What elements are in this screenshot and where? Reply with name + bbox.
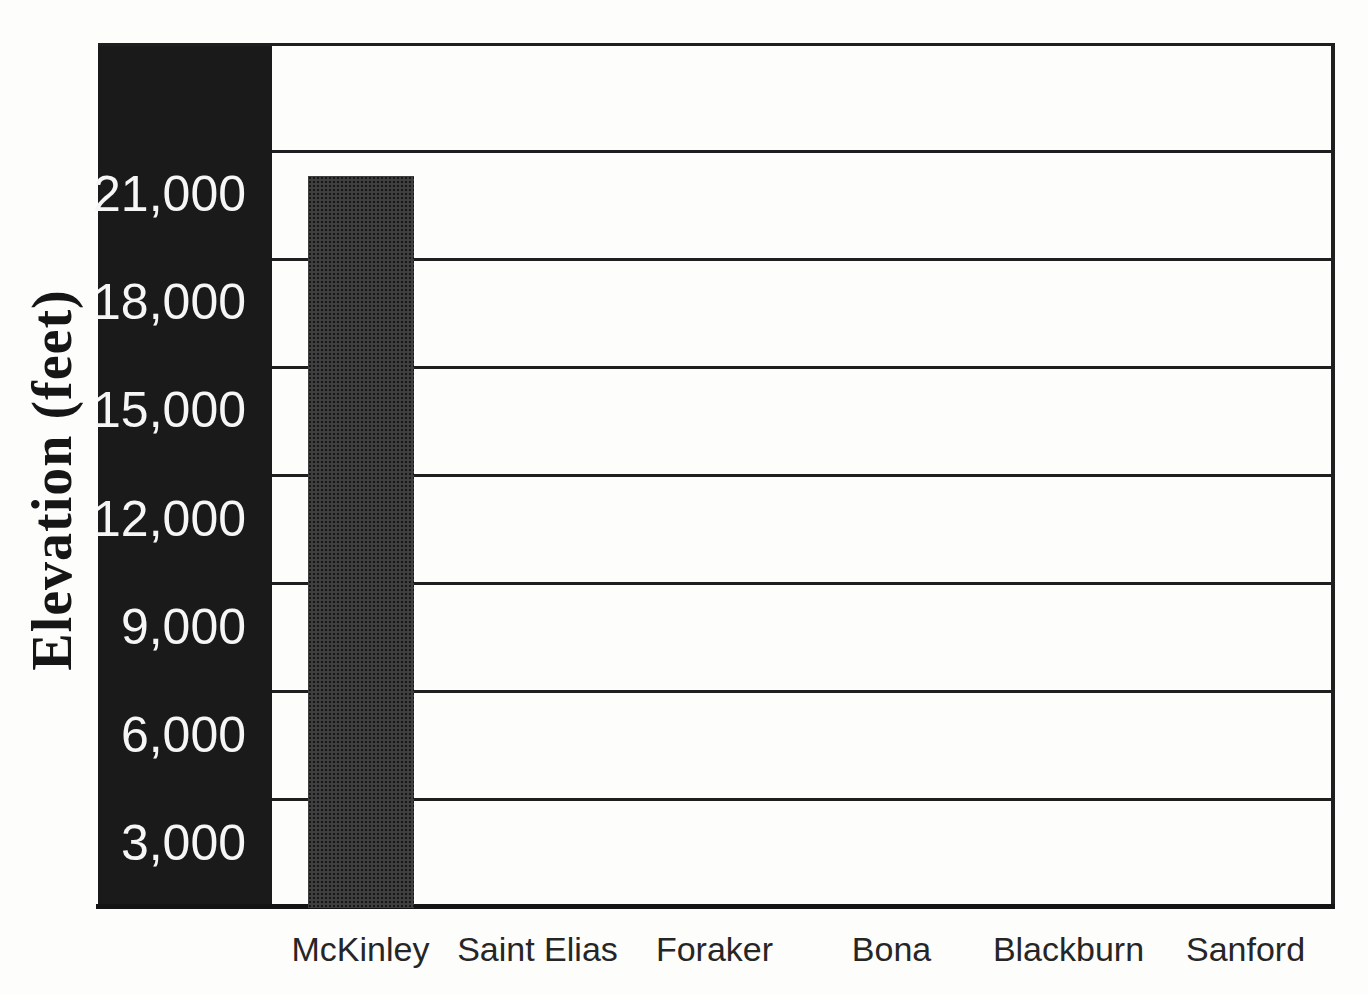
y-tick-label-18000: 18,000: [93, 274, 246, 330]
gridline-18000: [272, 258, 1334, 261]
y-tick-label-15000: 15,000: [93, 382, 246, 438]
plot-top-border: [98, 43, 1335, 46]
x-axis-line: [96, 904, 1335, 909]
y-tick-label-9000: 9,000: [121, 599, 246, 655]
gridline-15000: [272, 366, 1334, 369]
y-tick-label-6000: 6,000: [121, 707, 246, 763]
x-label-sanford: Sanford: [1126, 929, 1366, 969]
gridline-21000: [272, 150, 1334, 153]
y-tick-label-12000: 12,000: [93, 491, 246, 547]
y-axis-title: Elevation (feet): [20, 289, 84, 670]
y-axis-label-band: 21,00018,00015,00012,0009,0006,0003,000: [98, 43, 272, 908]
y-tick-label-21000: 21,000: [93, 166, 246, 222]
gridline-12000: [272, 474, 1334, 477]
y-tick-label-3000: 3,000: [121, 815, 246, 871]
scanned-bar-chart-page: Elevation (feet) 21,00018,00015,00012,00…: [0, 0, 1368, 995]
gridline-6000: [272, 690, 1334, 693]
bar-mckinley: [308, 176, 414, 908]
gridline-3000: [272, 798, 1334, 801]
gridline-9000: [272, 582, 1334, 585]
